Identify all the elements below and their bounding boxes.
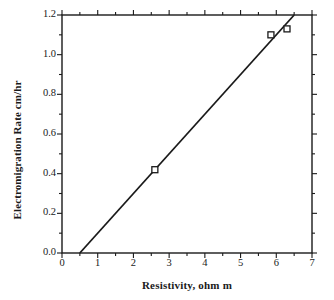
x-tick-label: 1 xyxy=(88,258,108,269)
data-point-marker xyxy=(268,32,274,38)
x-tick-label: 2 xyxy=(123,258,143,269)
y-tick-label: 0.6 xyxy=(26,128,56,139)
x-tick-label: 0 xyxy=(52,258,72,269)
data-point-marker xyxy=(152,167,158,173)
x-tick-label: 6 xyxy=(266,258,286,269)
fit-line xyxy=(80,15,294,253)
y-tick-label: 1.0 xyxy=(26,49,56,60)
y-tick-label: 1.2 xyxy=(26,9,56,20)
data-point-marker xyxy=(284,26,290,32)
x-tick-label: 4 xyxy=(195,258,215,269)
x-tick-label: 3 xyxy=(159,258,179,269)
x-tick-label: 5 xyxy=(231,258,251,269)
x-tick-label: 7 xyxy=(302,258,322,269)
y-tick-label: 0.4 xyxy=(26,168,56,179)
y-tick-label: 0.0 xyxy=(26,247,56,258)
chart-figure: Electromigration Rate cm/hr Resistivity,… xyxy=(0,0,334,300)
y-tick-label: 0.2 xyxy=(26,207,56,218)
y-tick-label: 0.8 xyxy=(26,88,56,99)
